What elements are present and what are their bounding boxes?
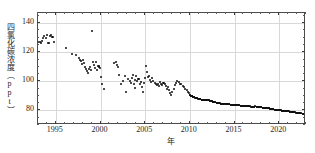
data-point [99, 67, 101, 69]
data-point [173, 88, 175, 90]
data-point [143, 82, 145, 84]
y-axis-minor-tick [303, 117, 305, 118]
x-axis-minor-tick [162, 12, 163, 14]
x-axis-tick [55, 121, 56, 124]
data-point [171, 91, 173, 93]
x-axis-tick-label: 1995 [47, 126, 63, 134]
x-axis-minor-tick [207, 122, 208, 124]
y-axis-minor-tick [37, 73, 39, 74]
y-axis-tick-label: 80 [26, 105, 34, 113]
x-axis-minor-tick [82, 122, 83, 124]
data-point [303, 113, 305, 115]
x-axis-minor-tick [287, 12, 288, 14]
y-axis-minor-tick [303, 95, 305, 96]
x-axis-minor-tick [225, 122, 226, 124]
y-axis-minor-tick [37, 95, 39, 96]
x-axis-tick-label: 2020 [270, 126, 286, 134]
data-point [158, 85, 160, 87]
y-axis-tick [302, 22, 305, 23]
y-axis-minor-tick [37, 66, 39, 67]
x-axis-minor-tick [135, 12, 136, 14]
data-point [89, 66, 91, 68]
data-point [142, 91, 144, 93]
y-axis-tick [302, 80, 305, 81]
y-axis-minor-tick [37, 124, 39, 125]
data-point [96, 69, 98, 71]
data-point [53, 41, 55, 43]
y-axis-minor-tick [303, 124, 305, 125]
x-axis-minor-tick [269, 122, 270, 124]
x-axis-minor-tick [260, 12, 261, 14]
x-axis-minor-tick [117, 12, 118, 14]
y-axis-minor-tick [303, 59, 305, 60]
x-axis-tick [278, 12, 279, 15]
x-axis-tick [234, 121, 235, 124]
x-axis-minor-tick [117, 122, 118, 124]
data-point [170, 94, 172, 96]
y-axis-minor-tick [303, 15, 305, 16]
x-axis-minor-tick [108, 122, 109, 124]
x-axis-minor-tick [260, 122, 261, 124]
y-axis-tick [37, 51, 40, 52]
y-axis-tick-label: 100 [22, 76, 34, 84]
data-point [135, 75, 137, 77]
data-point [146, 71, 148, 73]
data-point [82, 59, 84, 61]
x-axis-minor-tick [37, 12, 38, 14]
y-axis-minor-tick [37, 15, 39, 16]
y-axis-minor-tick [37, 102, 39, 103]
x-axis-minor-tick [180, 12, 181, 14]
data-point [48, 42, 50, 44]
y-axis-minor-tick [37, 88, 39, 89]
x-axis-minor-tick [135, 122, 136, 124]
x-axis-minor-tick [64, 122, 65, 124]
data-point [133, 83, 135, 85]
x-axis-minor-tick [305, 12, 306, 14]
x-axis-minor-tick [242, 12, 243, 14]
y-axis-minor-tick [303, 66, 305, 67]
data-point [145, 65, 147, 67]
data-point [120, 83, 122, 85]
x-axis-tick [100, 121, 101, 124]
y-axis-minor-tick [303, 102, 305, 103]
x-axis-minor-tick [242, 122, 243, 124]
x-axis-minor-tick [225, 12, 226, 14]
x-axis-minor-tick [180, 122, 181, 124]
y-axis-minor-tick [303, 73, 305, 74]
x-axis-minor-tick [171, 12, 172, 14]
data-point [71, 53, 73, 55]
data-point [131, 77, 133, 79]
y-axis-tick-label: 140 [22, 18, 34, 26]
x-axis-minor-tick [153, 122, 154, 124]
x-axis-minor-tick [251, 122, 252, 124]
data-point [91, 30, 93, 32]
x-axis-tick [100, 12, 101, 15]
chart-figure: 80100120140199520002005201020152020 四氯化碳… [0, 0, 315, 153]
x-axis-tick [278, 121, 279, 124]
x-axis-minor-tick [73, 122, 74, 124]
data-point [83, 62, 85, 64]
data-point [75, 54, 77, 56]
x-axis-minor-tick [46, 122, 47, 124]
x-axis-tick-label: 2005 [136, 126, 152, 134]
x-axis-minor-tick [198, 12, 199, 14]
data-point [134, 87, 136, 89]
x-axis-minor-tick [216, 122, 217, 124]
x-axis-tick [144, 121, 145, 124]
x-axis-minor-tick [153, 12, 154, 14]
data-point [137, 78, 139, 80]
data-point [141, 86, 143, 88]
x-axis-tick-label: 2015 [226, 126, 242, 134]
chart-title [0, 0, 315, 2]
x-axis-minor-tick [287, 122, 288, 124]
y-axis-tick [37, 109, 40, 110]
x-axis-minor-tick [207, 12, 208, 14]
y-axis-tick [302, 109, 305, 110]
data-point [103, 88, 105, 90]
x-axis-tick [144, 12, 145, 15]
x-axis-minor-tick [82, 12, 83, 14]
data-point [51, 36, 53, 38]
data-point [144, 77, 146, 79]
data-point [148, 75, 150, 77]
x-axis-minor-tick [126, 12, 127, 14]
